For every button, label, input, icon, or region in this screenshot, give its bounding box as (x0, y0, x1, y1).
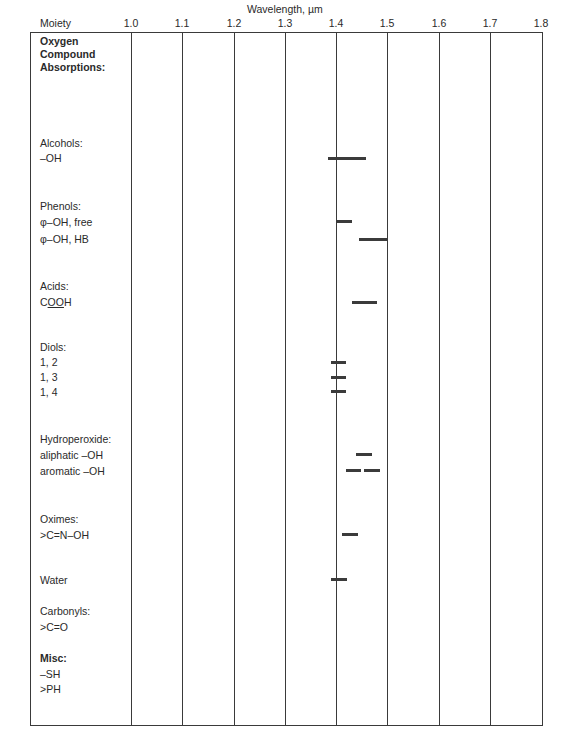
grid-line-1.6 (439, 32, 440, 726)
row-label-water: Water (40, 574, 68, 586)
group-label-carbonyls: Carbonyls: (40, 605, 90, 617)
band-diol-14 (331, 390, 346, 393)
axis-title: Wavelength, µm (247, 3, 323, 15)
row-label-alcohol-oh: –OH (40, 152, 62, 164)
row-label-phenol-hb: φ–OH, HB (40, 233, 89, 245)
x-tick-1.0: 1.0 (124, 17, 139, 29)
grid-line-1.7 (490, 32, 491, 726)
grid-line-1.5 (387, 32, 388, 726)
band-alcohol-oh (328, 157, 366, 160)
group-label-phenols: Phenols: (40, 200, 81, 212)
row-label-hp-aliphatic: aliphatic –OH (40, 449, 103, 461)
band-phenol-free (337, 220, 352, 223)
group-label-oximes: Oximes: (40, 513, 79, 525)
row-label-carbonyl: >C=O (40, 621, 68, 633)
band-hp-aromatic-1 (346, 469, 361, 472)
section-title: Absorptions: (40, 61, 105, 73)
row-label-hp-aromatic: aromatic –OH (40, 465, 105, 477)
column-header-moiety: Moiety (40, 17, 71, 29)
band-phenol-hb (359, 238, 388, 241)
band-water (331, 578, 347, 581)
row-label-oxime: >C=N–OH (40, 529, 89, 541)
band-diol-12 (331, 361, 346, 364)
row-label-sh: –SH (40, 668, 60, 680)
band-oxime (342, 533, 358, 536)
row-label-cooh: COOH (40, 296, 72, 308)
group-label-diols: Diols: (40, 341, 66, 353)
group-label-hydroperoxide: Hydroperoxide: (40, 433, 111, 445)
row-label-diol-13: 1, 3 (40, 371, 58, 383)
group-label-alcohols: Alcohols: (40, 137, 83, 149)
band-diol-13 (331, 376, 346, 379)
grid-line-1.1 (182, 32, 183, 726)
x-tick-1.8: 1.8 (534, 17, 549, 29)
chart-frame (30, 32, 543, 726)
row-label-phenol-free: φ–OH, free (40, 216, 92, 228)
row-label-diol-14: 1, 4 (40, 386, 58, 398)
x-tick-1.5: 1.5 (380, 17, 395, 29)
x-tick-1.1: 1.1 (175, 17, 190, 29)
x-tick-1.3: 1.3 (278, 17, 293, 29)
row-label-diol-12: 1, 2 (40, 356, 58, 368)
group-label-acids: Acids: (40, 280, 69, 292)
x-tick-1.4: 1.4 (329, 17, 344, 29)
band-acid-cooh (352, 301, 377, 304)
section-title: Oxygen (40, 35, 79, 47)
grid-line-1.0 (131, 32, 132, 726)
x-tick-1.2: 1.2 (227, 17, 242, 29)
x-tick-1.6: 1.6 (432, 17, 447, 29)
grid-line-1.4 (336, 32, 337, 726)
grid-line-1.3 (285, 32, 286, 726)
band-hp-aliphatic (356, 453, 372, 456)
row-label-ph: >PH (40, 683, 61, 695)
section-title: Compound (40, 48, 95, 60)
band-hp-aromatic-2 (364, 469, 380, 472)
grid-line-1.2 (234, 32, 235, 726)
section-title-misc: Misc: (40, 652, 67, 664)
x-tick-1.7: 1.7 (483, 17, 498, 29)
